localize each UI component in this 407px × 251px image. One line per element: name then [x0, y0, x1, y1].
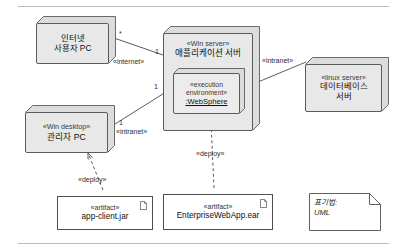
node-name-line1: 인터넷: [61, 34, 85, 44]
node-name-line1: 애플리케이션 서버: [175, 48, 241, 58]
node-internet-user-pc[interactable]: 인터넷 사용자 PC: [36, 16, 116, 64]
artifact-app-client-jar[interactable]: «artifact» app-client.jar: [57, 196, 153, 230]
artifact-name: EnterpriseWebApp.ear: [177, 211, 260, 221]
node-stereotype: «Win server»: [187, 40, 229, 48]
multiplicity-internet-source: *: [119, 29, 122, 38]
edge-label-intranet-db: «intranet»: [262, 57, 293, 64]
node-body: 인터넷 사용자 PC: [36, 23, 109, 64]
notation-note: 표기법: UML: [309, 193, 381, 231]
artifact-stereotype: «artifact»: [204, 203, 233, 212]
inner-node-name: :WebSphere: [185, 97, 227, 106]
uml-deployment-diagram: 인터넷 사용자 PC «Win server» 애플리케이션 서버 «execu…: [0, 0, 407, 251]
multiplicity-intranet-admin-source: 1: [119, 118, 123, 127]
inner-node-stereotype-line2: environment»: [186, 89, 227, 97]
multiplicity-internet-target: 1: [155, 47, 159, 56]
artifact-stereotype: «artifact»: [91, 204, 120, 213]
node-stereotype: «Win desktop»: [43, 123, 91, 131]
node-name-line2: 서버: [336, 92, 352, 102]
edge-deploy-client: [88, 153, 103, 190]
artifact-enterprise-webapp-ear[interactable]: «artifact» EnterpriseWebApp.ear: [163, 194, 273, 230]
edge-label-internet: «internet»: [113, 58, 144, 65]
node-admin-pc[interactable]: «Win desktop» 관리자 PC: [25, 105, 115, 153]
document-icon: [140, 201, 147, 210]
node-body: «linux server» 데이터베이스 서버: [305, 64, 382, 112]
node-db-server[interactable]: «linux server» 데이터베이스 서버: [305, 57, 389, 112]
node-body: «Win desktop» 관리자 PC: [25, 112, 108, 153]
artifact-name: app-client.jar: [82, 212, 129, 222]
notation-note-text: 표기법: UML: [314, 198, 337, 219]
node-app-server[interactable]: «Win server» 애플리케이션 서버 «execution enviro…: [163, 26, 260, 131]
multiplicity-intranet-admin-target: 1: [154, 82, 158, 91]
edge-intranet-db: [258, 62, 306, 82]
inner-node-stereotype-line1: «execution: [190, 81, 223, 89]
node-name-line1: 관리자 PC: [47, 132, 85, 142]
document-icon: [260, 199, 267, 208]
edge-label-deploy-client: «deploy»: [78, 176, 106, 183]
inner-node-body: «execution environment» :WebSphere: [173, 73, 240, 114]
edge-label-intranet-admin: «intranet»: [116, 128, 147, 135]
node-name-line2: 사용자 PC: [54, 44, 92, 54]
edge-label-deploy-ear: «deploy»: [196, 150, 224, 157]
node-websphere[interactable]: «execution environment» :WebSphere: [173, 68, 245, 114]
